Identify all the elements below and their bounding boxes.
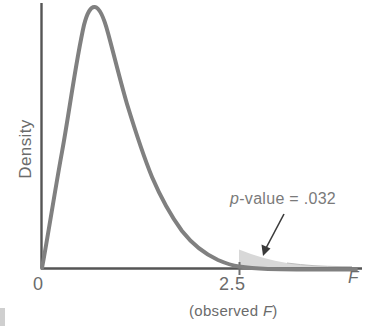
pvalue-arrow [262,214,285,256]
density-curve [42,7,356,269]
density-plot [0,0,369,326]
x-axis-label: F [348,268,358,288]
x-axis-caption-variable: F [263,302,272,319]
x-tick-label-zero: 0 [33,274,43,295]
x-axis-caption: (observed F) [189,302,278,319]
f-distribution-figure: Density 0 2.5 (observed F) F p-value = .… [0,0,369,326]
x-axis-caption-suffix: ) [272,302,277,319]
x-axis-caption-prefix: (observed [189,302,263,319]
pvalue-annotation-variable: p [230,190,239,207]
pvalue-annotation: p-value = .032 [230,190,336,208]
y-axis-label: Density [16,109,36,189]
shaded-tail-region [239,250,352,269]
scan-edge-artifact [0,308,5,326]
x-tick-label-observed: 2.5 [219,274,246,295]
pvalue-annotation-text: -value = .032 [239,190,336,207]
